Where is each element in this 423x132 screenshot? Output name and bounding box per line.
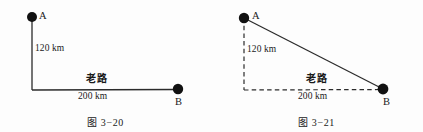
point-b-label: B	[383, 97, 390, 108]
point-b-marker	[173, 84, 183, 94]
horizontal-distance-label: 200 km	[298, 92, 327, 102]
figure-page: A B 120 km 老路 200 km 图 3−20 A B 120 km 老…	[0, 0, 423, 132]
point-a-marker	[239, 13, 249, 23]
horizontal-leg-line	[32, 90, 178, 91]
point-a-label: A	[39, 11, 47, 22]
horizontal-distance-label: 200 km	[78, 92, 107, 102]
road-label: 老路	[86, 74, 107, 84]
figure-caption: 图 3−20	[0, 114, 211, 129]
point-a-marker	[27, 12, 37, 22]
figure-3-21: A B 120 km 老路 200 km 图 3−21	[211, 0, 422, 132]
figure-caption: 图 3−21	[211, 114, 422, 129]
point-b-marker	[378, 84, 389, 95]
figure-3-21-drawing	[211, 0, 422, 132]
road-label: 老路	[306, 74, 327, 84]
figure-3-20: A B 120 km 老路 200 km 图 3−20	[0, 0, 211, 132]
point-a-label: A	[252, 11, 260, 22]
horizontal-leg-line	[244, 90, 383, 91]
vertical-distance-label: 120 km	[247, 45, 276, 55]
point-b-label: B	[175, 97, 182, 108]
vertical-distance-label: 120 km	[35, 44, 64, 54]
figure-3-20-drawing	[0, 0, 211, 132]
